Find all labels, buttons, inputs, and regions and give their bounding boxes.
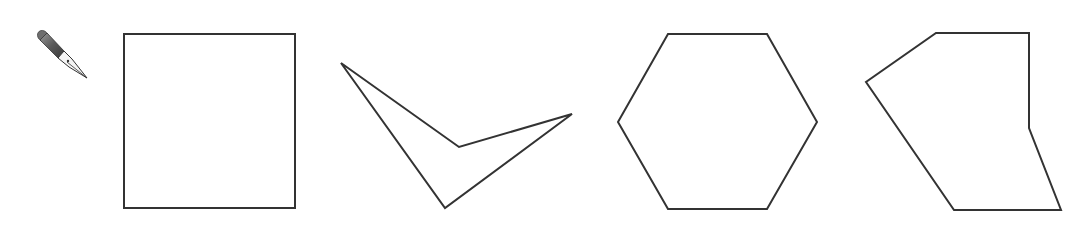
square-shape[interactable] [124, 34, 295, 208]
drawing-canvas[interactable] [0, 0, 1091, 229]
irregular-hexagon-shape[interactable] [866, 33, 1061, 210]
hexagon-shape[interactable] [618, 34, 817, 209]
concave-quadrilateral-shape[interactable] [341, 63, 572, 208]
